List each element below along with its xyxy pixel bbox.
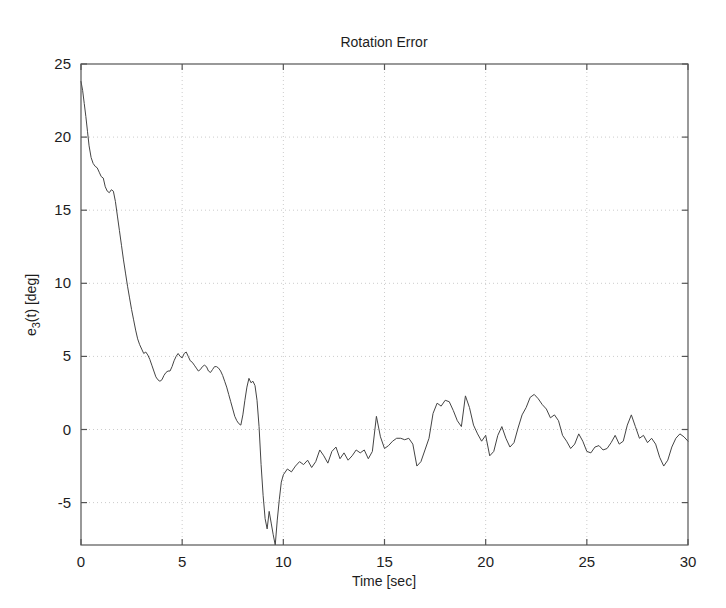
chart-title: Rotation Error (340, 34, 427, 50)
y-axis-title-base: e (23, 328, 39, 336)
y-tick-label: 5 (63, 347, 71, 364)
rotation-error-chart: 051015202530 -50510152025 Rotation Error… (0, 0, 726, 608)
y-axis-title: e3(t) [deg] (23, 274, 42, 336)
y-tick-label: 10 (54, 274, 71, 291)
y-tick-label: 25 (54, 55, 71, 72)
x-tick-label: 25 (578, 553, 595, 570)
x-axis-tick-labels: 051015202530 (77, 553, 697, 570)
y-tick-label: 0 (63, 421, 71, 438)
x-tick-label: 10 (275, 553, 292, 570)
x-axis-title: Time [sec] (352, 573, 416, 589)
y-axis-title-rest: (t) [deg] (23, 274, 39, 322)
y-tick-label: 15 (54, 201, 71, 218)
y-tick-label: -5 (58, 494, 71, 511)
y-tick-label: 20 (54, 128, 71, 145)
x-tick-label: 20 (477, 553, 494, 570)
x-tick-label: 5 (178, 553, 186, 570)
x-tick-label: 15 (376, 553, 393, 570)
svg-text:e3(t) [deg]: e3(t) [deg] (23, 274, 42, 336)
x-tick-label: 0 (77, 553, 85, 570)
figure-container: 051015202530 -50510152025 Rotation Error… (0, 0, 726, 608)
y-axis-tick-labels: -50510152025 (54, 55, 71, 511)
x-tick-label: 30 (680, 553, 697, 570)
